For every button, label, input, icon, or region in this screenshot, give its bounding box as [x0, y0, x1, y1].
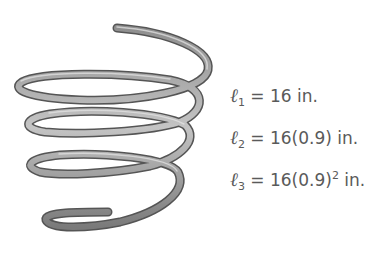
equation-l2: ℓ2 = 16(0.9) in. [230, 126, 358, 151]
unit: in. [332, 128, 358, 148]
unit: in. [292, 86, 318, 106]
value: 16 [270, 86, 292, 106]
unit: in. [339, 170, 365, 190]
length-symbol: ℓ [230, 84, 238, 106]
subscript: 2 [238, 138, 245, 151]
length-symbol: ℓ [230, 168, 238, 190]
subscript: 1 [238, 96, 245, 109]
equation-l3: ℓ3 = 16(0.9)2 in. [230, 168, 365, 193]
equation-l1: ℓ1 = 16 in. [230, 84, 318, 109]
value: 16(0.9) [270, 128, 332, 148]
exponent: 2 [332, 169, 339, 182]
equals-sign: = [245, 170, 270, 190]
equals-sign: = [245, 128, 270, 148]
equals-sign: = [245, 86, 270, 106]
spring-illustration [0, 0, 230, 261]
subscript: 3 [238, 180, 245, 193]
value: 16(0.9) [270, 170, 332, 190]
length-symbol: ℓ [230, 126, 238, 148]
